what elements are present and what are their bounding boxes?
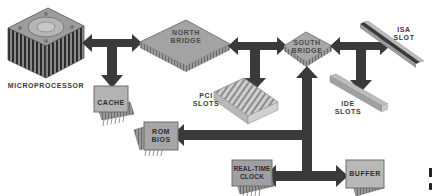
buffer-chip-icon	[346, 160, 384, 196]
isa-slot-label-line1: ISA	[390, 26, 418, 34]
ide-slots-label: IDE SLOTS	[333, 100, 363, 116]
northbridge-label: NORTH BRIDGE	[160, 29, 212, 45]
ide-slots-label-line1: IDE	[333, 100, 363, 108]
northbridge-label-line1: NORTH	[160, 29, 212, 37]
ide-slots-label-line2: SLOTS	[333, 108, 363, 116]
microprocessor-label: MICROPROCESSOR	[6, 82, 86, 90]
rtc-label: REAL-TIME CLOCK	[230, 165, 274, 181]
pci-slots-label-line1: PCI	[192, 92, 220, 100]
pci-slots-icon	[214, 78, 278, 124]
pci-slots-label-line2: SLOTS	[192, 100, 220, 108]
rtc-label-line1: REAL-TIME	[230, 165, 274, 173]
southbridge-label-line1: SOUTH	[288, 39, 326, 47]
rom-bios-label-line2: BIOS	[144, 136, 178, 144]
northbridge-chip-icon	[140, 20, 230, 72]
rtc-label-line2: CLOCK	[230, 173, 274, 181]
buffer-label: BUFFER	[346, 170, 384, 178]
southbridge-label-line2: BRIDGE	[288, 47, 326, 55]
pci-slots-label: PCI SLOTS	[192, 92, 220, 108]
cache-label: CACHE	[94, 99, 128, 107]
northbridge-label-line2: BRIDGE	[160, 37, 212, 45]
computer-architecture-diagram: MICROPROCESSOR CACHE NORTH BRIDGE PCI SL…	[0, 0, 432, 196]
isa-slot-label: ISA SLOT	[390, 26, 418, 42]
arrow-cpu-northbridge	[82, 34, 142, 88]
microprocessor-icon	[8, 8, 84, 78]
southbridge-label: SOUTH BRIDGE	[288, 39, 326, 55]
rom-bios-label-line1: ROM	[144, 128, 178, 136]
rom-bios-label: ROM BIOS	[144, 128, 178, 144]
isa-slot-label-line2: SLOT	[390, 34, 418, 42]
